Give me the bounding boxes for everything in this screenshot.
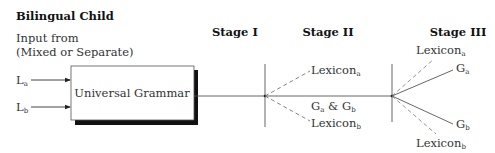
language-a-label: La	[16, 73, 28, 88]
stage-3-lexicon-b: Lexiconb	[416, 136, 466, 151]
language-b-label: Lb	[16, 100, 29, 115]
stage-3-lexicon-a-branch	[392, 59, 434, 96]
bilingual-acquisition-diagram: Bilingual Child Input from (Mixed or Sep…	[0, 0, 495, 153]
stage-2-label: Stage II	[302, 25, 353, 39]
stage-3-lexicon-b-branch	[392, 96, 436, 134]
stage-3-grammar-a: Ga	[456, 61, 469, 76]
stage-2-lexicon-b-branch	[265, 96, 310, 121]
stage-3-grammar-b-branch	[392, 96, 453, 124]
stage-3-grammar-a-branch	[392, 70, 453, 96]
stage-3-grammar-b: Gb	[456, 117, 470, 132]
stage-3-lexicon-a: Lexicona	[416, 43, 466, 58]
diagram-title: Bilingual Child	[16, 9, 114, 23]
stage-2-lexicon-a-branch	[265, 71, 310, 96]
stage-2-lexicon-b: Lexiconb	[311, 116, 361, 131]
input-label-line2: (Mixed or Separate)	[16, 45, 134, 59]
stage-3-label: Stage III	[430, 25, 487, 39]
stage-1-label: Stage I	[212, 25, 258, 39]
universal-grammar-label: Universal Grammar	[74, 86, 190, 100]
stage-2-lexicon-a: Lexicona	[311, 63, 361, 78]
input-label-line1: Input from	[16, 31, 79, 45]
stage-2-grammars: Ga & Gb	[311, 99, 356, 114]
